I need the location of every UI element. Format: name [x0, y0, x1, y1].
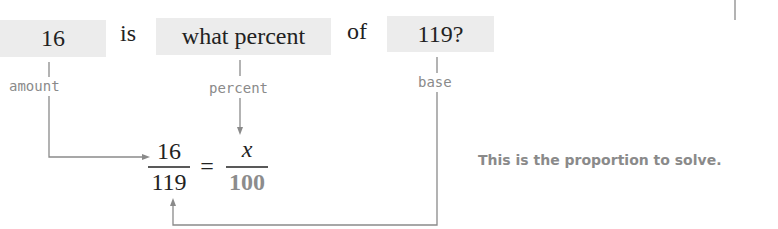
amount-box: 16: [0, 20, 106, 57]
equals-sign: =: [198, 153, 216, 180]
base-box: 119?: [387, 16, 494, 52]
left-denominator: 119: [148, 169, 190, 196]
percent-box: what percent: [156, 18, 331, 55]
base-label: base: [418, 74, 452, 90]
percent-label: percent: [209, 80, 268, 96]
amount-value: 16: [41, 25, 65, 52]
word-is: is: [120, 20, 136, 47]
right-numerator: x: [226, 136, 268, 163]
amount-label: amount: [9, 78, 60, 94]
left-numerator: 16: [148, 138, 190, 165]
right-denominator: 100: [226, 169, 268, 196]
word-of: of: [347, 18, 367, 45]
percent-question: what percent: [182, 23, 305, 50]
proportion-note: This is the proportion to solve.: [478, 152, 721, 168]
base-value: 119?: [418, 21, 464, 48]
